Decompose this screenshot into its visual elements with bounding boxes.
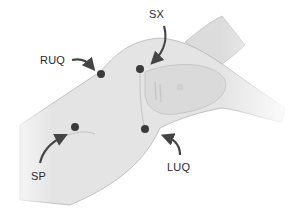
probe-dot-luq: [141, 125, 149, 133]
probe-dot-sp: [71, 123, 79, 131]
fast-exam-diagram: RUQ SX SP LUQ: [0, 0, 295, 215]
label-luq: LUQ: [167, 162, 190, 173]
torso-illustration: [0, 0, 295, 215]
label-ruq: RUQ: [40, 55, 65, 66]
probe-dot-sx: [136, 65, 144, 73]
label-sx: SX: [149, 9, 164, 20]
label-sp: SP: [31, 171, 46, 182]
probe-dot-ruq: [97, 70, 105, 78]
